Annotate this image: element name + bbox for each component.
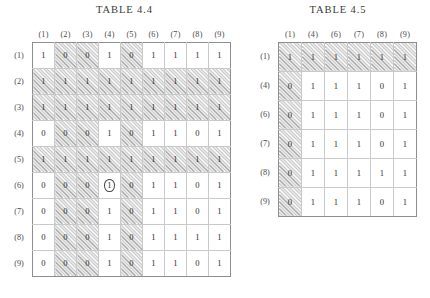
table-title-4-5: TABLE 4.5 (252, 4, 424, 15)
row-header-4: (8) (252, 158, 279, 187)
matrix-cell-value: 1 (357, 53, 361, 62)
matrix-cell: 1 (209, 146, 231, 172)
matrix-cell: 1 (302, 42, 325, 71)
matrix-cell: 1 (121, 94, 143, 120)
matrix-cell: 0 (33, 198, 55, 224)
matrix-cell: 1 (99, 250, 121, 276)
matrix-cell: 1 (302, 100, 325, 129)
matrix-cell: 0 (279, 158, 302, 187)
matrix-cell-value: 1 (151, 259, 155, 268)
matrix-cell: 1 (55, 146, 77, 172)
row-header-7: (8) (6, 224, 33, 250)
column-header-2: (6) (325, 27, 348, 42)
matrix-cell: 0 (77, 42, 99, 68)
matrix-cell-value: 1 (151, 51, 155, 60)
matrix-cell: 0 (121, 42, 143, 68)
matrix-cell: 1 (209, 198, 231, 224)
matrix-cell-value: 1 (334, 140, 338, 149)
matrix-cell-value: 0 (129, 129, 133, 138)
matrix-cell-value: 1 (403, 53, 407, 62)
row-header-3: (7) (252, 129, 279, 158)
matrix-cell-value: 0 (380, 82, 384, 91)
matrix-cell-value: 1 (403, 198, 407, 207)
matrix-cell: 0 (77, 172, 99, 198)
matrix-cell-value: 1 (41, 155, 45, 164)
matrix-cell-value: 0 (129, 51, 133, 60)
matrix-cell: 1 (348, 71, 371, 100)
matrix-cell: 1 (143, 94, 165, 120)
matrix-cell: 1 (394, 71, 417, 100)
matrix-cell: 1 (99, 146, 121, 172)
matrix-cell-value: 1 (380, 53, 384, 62)
matrix-row: (4)000101101 (6, 120, 231, 146)
matrix-cell: 1 (143, 172, 165, 198)
matrix-cell-value: 0 (195, 259, 199, 268)
matrix-cell: 1 (394, 187, 417, 216)
matrix-cell: 0 (77, 224, 99, 250)
matrix-cell: 1 (165, 68, 187, 94)
matrix-cell: 1 (325, 129, 348, 158)
table-title-4-4: TABLE 4.4 (6, 4, 243, 15)
matrix-cell-value: 1 (403, 140, 407, 149)
matrix-cell-value: 1 (173, 103, 177, 112)
row-header-6: (7) (6, 198, 33, 224)
matrix-cell-value: 0 (41, 207, 45, 216)
row-header-3: (4) (6, 120, 33, 146)
matrix-cell-value: 0 (41, 181, 45, 190)
matrix-cell-value: 1 (311, 169, 315, 178)
matrix-cell-value: 1 (173, 207, 177, 216)
row-header-0: (1) (252, 42, 279, 71)
matrix-cell: 0 (371, 187, 394, 216)
matrix-cell-value: 1 (311, 53, 315, 62)
matrix-cell: 1 (165, 146, 187, 172)
matrix-cell: 0 (33, 120, 55, 146)
matrix-cell-value: 1 (41, 77, 45, 86)
matrix-cell-value: 0 (85, 51, 89, 60)
matrix-cell: 1 (371, 158, 394, 187)
matrix-cell: 0 (121, 172, 143, 198)
matrix-row: (1)100101111 (6, 42, 231, 68)
matrix-cell: 0 (121, 224, 143, 250)
matrix-cell: 1 (325, 187, 348, 216)
matrix-cell: 1 (209, 68, 231, 94)
matrix-cell-value: 1 (63, 77, 67, 86)
matrix-cell-value: 0 (129, 207, 133, 216)
matrix-row: (7)011101 (252, 129, 417, 158)
matrix-cell-value: 1 (217, 51, 221, 60)
matrix-cell-value: 0 (63, 51, 67, 60)
matrix-cell: 1 (209, 94, 231, 120)
matrix-cell-value: 1 (334, 169, 338, 178)
matrix-table-4-5-body: (1)(4)(6)(7)(8)(9)(1)111111(4)011101(6)0… (252, 27, 417, 216)
matrix-cell-value: 1 (63, 155, 67, 164)
row-header-1: (2) (6, 68, 33, 94)
matrix-cell: 1 (33, 94, 55, 120)
matrix-cell: 1 (165, 172, 187, 198)
matrix-cell: 1 (99, 224, 121, 250)
matrix-cell: 1 (77, 146, 99, 172)
matrix-cell-value: 1 (357, 169, 361, 178)
matrix-cell-value: 1 (217, 207, 221, 216)
matrix-cell-value: 1 (195, 77, 199, 86)
matrix-cell: 1 (348, 42, 371, 71)
matrix-cell: 1 (77, 94, 99, 120)
matrix-cell: 0 (371, 71, 394, 100)
matrix-cell-value: 0 (41, 129, 45, 138)
matrix-cell-value: 0 (288, 111, 292, 120)
column-header-0: (1) (33, 27, 55, 42)
matrix-row: (4)011101 (252, 71, 417, 100)
matrix-cell: 1 (143, 250, 165, 276)
matrix-row: (5)111111111 (6, 146, 231, 172)
column-header-2: (3) (77, 27, 99, 42)
matrix-cell: 1 (302, 158, 325, 187)
matrix-row: (3)111111111 (6, 94, 231, 120)
matrix-row: (8)011111 (252, 158, 417, 187)
matrix-cell: 1 (77, 68, 99, 94)
matrix-cell: 1 (209, 172, 231, 198)
matrix-cell-value: 1 (173, 51, 177, 60)
matrix-cell: 1 (209, 224, 231, 250)
matrix-cell-value: 1 (173, 77, 177, 86)
matrix-cell: 1 (394, 42, 417, 71)
matrix-cell: 1 (99, 120, 121, 146)
matrix-cell: 1 (99, 42, 121, 68)
matrix-cell-value: 0 (288, 198, 292, 207)
